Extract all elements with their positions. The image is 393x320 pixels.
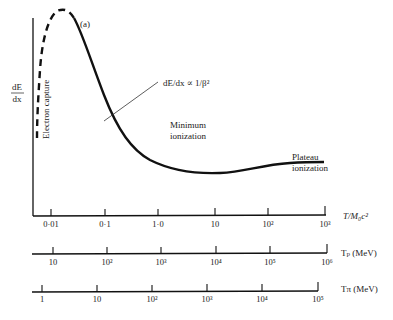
axis1-tick-1: 0·1 xyxy=(99,219,110,229)
axis1-tick-4: 10² xyxy=(262,219,274,229)
beta-law-label: dE/dx ∝ 1/β² xyxy=(163,78,210,88)
ylabel-numerator: dE xyxy=(12,82,23,92)
axis1-tick-2: 1·0 xyxy=(152,219,163,229)
axis2-tick-3: 10⁴ xyxy=(210,257,222,267)
axis3-tick-1: 10 xyxy=(93,294,102,304)
electron-capture-label: Electron capture xyxy=(41,80,51,139)
axis2-tick-5: 10⁶ xyxy=(321,257,333,267)
minimum-label-line2: ionization xyxy=(170,131,206,141)
axis3-line xyxy=(32,291,318,292)
axis1-label: T/M₀c² xyxy=(343,211,368,221)
axis3-tick-4: 10⁴ xyxy=(256,294,268,304)
axis2-tick-0: 10 xyxy=(49,257,58,267)
axis2-label: Tₚ (MeV) xyxy=(341,248,377,258)
plateau-label-line1: Plateau xyxy=(292,152,319,162)
curve-solid xyxy=(74,18,324,173)
axis3-tick-0: 1 xyxy=(40,294,44,304)
axis2-tick-4: 10⁵ xyxy=(264,257,276,267)
axis1-tick-5: 10³ xyxy=(319,219,331,229)
axis1-tick-0: 0·01 xyxy=(43,219,59,229)
x-axis-t-over-m0c2 xyxy=(33,215,326,216)
axis3-label: Tπ (MeV) xyxy=(341,284,378,294)
plateau-label-line2: ionization xyxy=(292,163,328,173)
energy-loss-chart: (a) dE dx Electron capture dE/dx ∝ 1/β² … xyxy=(0,0,393,320)
axis2-line xyxy=(32,253,327,254)
axis2-tick-1: 10² xyxy=(101,257,113,267)
panel-label: (a) xyxy=(80,19,90,29)
ylabel-denominator: dx xyxy=(13,94,23,104)
axis1-tick-3: 10 xyxy=(211,219,220,229)
axis3-tick-2: 10² xyxy=(146,294,158,304)
axis3-tick-3: 10³ xyxy=(201,294,213,304)
annotation-leader-line xyxy=(104,82,158,121)
axis2-tick-2: 10³ xyxy=(155,257,167,267)
minimum-label-line1: Minimum xyxy=(170,120,206,130)
axis3-tick-5: 10⁵ xyxy=(312,294,324,304)
